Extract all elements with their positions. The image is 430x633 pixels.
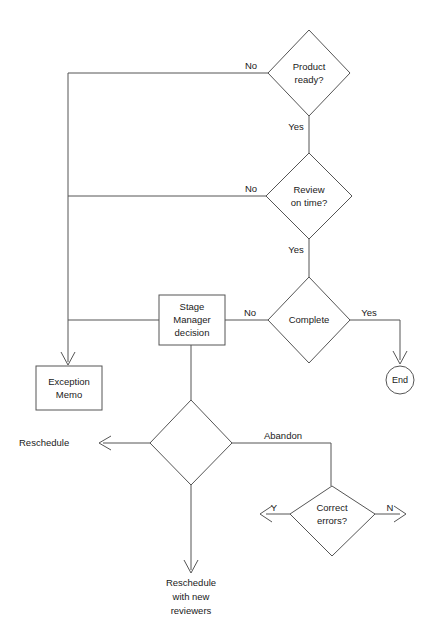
edge-label-correct-yes: Y [271, 502, 278, 513]
node-exception-memo[interactable]: Exception Memo [36, 366, 102, 410]
node-review-on-time-label-1: Review [293, 184, 324, 195]
node-end-label: End [392, 375, 408, 385]
node-stage-manager-label-2: Manager [173, 314, 211, 325]
free-label-reschedule: Reschedule [19, 437, 69, 448]
node-unlabeled-decision[interactable] [150, 400, 232, 485]
edge-label-correct-no: N [387, 502, 394, 513]
node-complete-label: Complete [289, 314, 330, 325]
flowchart-svg: Product ready? Review on time? Complete … [0, 0, 430, 633]
node-product-ready-label-1: Product [293, 61, 326, 72]
node-correct-errors-label-2: errors? [317, 515, 347, 526]
edge-label-complete-yes: Yes [361, 307, 377, 318]
node-stage-manager-label-1: Stage [180, 301, 205, 312]
node-complete[interactable]: Complete [268, 277, 350, 363]
edge-label-review-yes: Yes [288, 244, 304, 255]
node-product-ready[interactable]: Product ready? [268, 30, 350, 116]
node-exception-memo-label-2: Memo [56, 389, 82, 400]
edge-label-review-no: No [245, 183, 257, 194]
edge-label-abandon: Abandon [264, 430, 302, 441]
edge-abandon [232, 443, 331, 486]
flowchart-canvas: Product ready? Review on time? Complete … [0, 0, 430, 633]
edge-complete-yes [350, 320, 400, 360]
edge-label-complete-no: No [244, 307, 256, 318]
free-label-reschedule-new-3: reviewers [171, 605, 212, 616]
edge-label-product-no: No [245, 60, 257, 71]
node-product-ready-label-2: ready? [294, 74, 323, 85]
node-exception-memo-label-1: Exception [48, 376, 90, 387]
node-stage-manager-decision[interactable]: Stage Manager decision [159, 295, 225, 345]
node-review-on-time-label-2: on time? [291, 197, 327, 208]
free-label-reschedule-new-1: Reschedule [166, 577, 216, 588]
node-review-on-time[interactable]: Review on time? [266, 153, 352, 239]
node-stage-manager-label-3: decision [175, 327, 210, 338]
node-end[interactable]: End [386, 366, 414, 394]
free-label-reschedule-new-2: with new [172, 591, 210, 602]
node-correct-errors[interactable]: Correct errors? [290, 486, 375, 556]
node-correct-errors-label-1: Correct [316, 502, 348, 513]
edge-label-product-yes: Yes [288, 121, 304, 132]
